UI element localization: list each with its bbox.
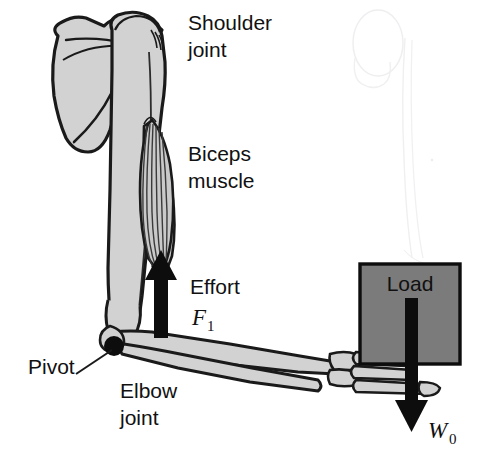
effort-arrow — [145, 250, 177, 338]
pivot-leader-line — [76, 350, 112, 374]
shoulder-joint-label-line2: joint — [187, 38, 227, 61]
elbow-joint-label-line1: Elbow — [120, 379, 178, 402]
weight-subscript: 0 — [449, 431, 457, 447]
load-label: Load — [387, 272, 434, 295]
shoulder-joint-label-line1: Shoulder — [188, 11, 272, 34]
effort-subscript: 1 — [207, 318, 215, 334]
arm-lever-diagram: Load Shoulder joint Biceps muscle Effort… — [0, 0, 486, 466]
diagram-canvas: Load Shoulder joint Biceps muscle Effort… — [0, 0, 486, 466]
pivot-label: Pivot — [28, 355, 75, 378]
ghost-sketch — [353, 10, 433, 264]
biceps-label-line1: Biceps — [188, 142, 251, 165]
effort-symbol: F — [191, 305, 207, 330]
biceps-label-line2: muscle — [188, 169, 255, 192]
elbow-joint-label-line2: joint — [119, 406, 159, 429]
weight-symbol: W — [428, 418, 449, 443]
effort-label: Effort — [190, 275, 240, 298]
